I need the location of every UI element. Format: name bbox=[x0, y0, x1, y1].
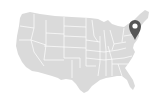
us-map bbox=[0, 0, 161, 98]
us-land-shape bbox=[16, 10, 149, 93]
map-pin-hole bbox=[132, 23, 137, 28]
us-map-svg bbox=[0, 0, 161, 98]
